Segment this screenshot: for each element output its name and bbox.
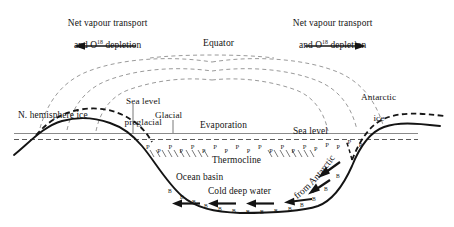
thermocline-marker: P (168, 143, 172, 150)
thermocline-marker: P (348, 138, 352, 145)
label-equator: Equator (203, 38, 234, 49)
label-line-2: ice (373, 113, 384, 123)
bottom-water-marker: B (246, 209, 250, 215)
label-line-1: Sea level (126, 96, 160, 106)
thermocline-marker: P (359, 141, 362, 148)
label-glacial: Glacial (155, 110, 182, 120)
label-net-vapour-transport-right: Net vapour transport and O18 depletion (283, 7, 372, 61)
bottom-water-marker: B (180, 194, 184, 200)
label-line-2-post: depletion (328, 40, 366, 50)
thermocline-marker: P (269, 147, 272, 154)
label-thermocline: Thermocline (212, 155, 261, 166)
thermocline-marker: P (292, 147, 295, 154)
bottom-water-marker: B (260, 209, 264, 215)
thermocline-marker: P (236, 143, 240, 150)
label-net-vapour-transport-left: Net vapour transport and O18 depletion (58, 7, 147, 61)
thermocline-marker: P (303, 143, 307, 150)
deep-water-arrow (246, 200, 274, 208)
vapour-crown-arc (150, 55, 274, 58)
label-evaporation: Evaporation (200, 120, 247, 131)
ocean-ice-isotope-diagram: from Antarctic Net vapour transport and … (0, 0, 454, 227)
bottom-water-marker: B (192, 199, 196, 205)
label-line-1: Net vapour transport (68, 18, 148, 28)
label-line-1: Net vapour transport (293, 18, 373, 28)
thermocline-marker: P (146, 143, 150, 150)
deep-water-arrow (208, 200, 236, 208)
thermocline-marker: P (314, 145, 317, 152)
bottom-water-marker: B (336, 173, 340, 179)
label-line-2-pre: and O (299, 40, 322, 50)
thermocline-marker: P (157, 147, 160, 154)
label-antarctic-ice: Antarctic ice (352, 82, 396, 133)
label-ocean-basin: Ocean basin (176, 172, 223, 183)
bottom-water-marker: B (168, 188, 172, 194)
thermocline-marker: P (213, 143, 217, 150)
thermocline-marker: P (325, 141, 329, 148)
bottom-water-marker: B (204, 203, 208, 209)
thermocline-marker: P (224, 147, 227, 154)
thermocline-marker: P (191, 143, 195, 150)
thermocline-marker: P (247, 147, 250, 154)
thermocline-marker: P (336, 143, 339, 150)
curved-label-from-antarctic: from Antarctic (291, 153, 336, 201)
bottom-water-marker: B (324, 186, 328, 192)
bottom-water-marker: B (218, 206, 222, 212)
thermocline-marker: P (202, 147, 205, 154)
thermocline-marker: P (258, 143, 262, 150)
thermocline-marker: P (280, 143, 284, 150)
label-line-2-post: depletion (103, 40, 141, 50)
label-line-2-pre: and O (74, 40, 97, 50)
bottom-water-marker: B (300, 202, 304, 208)
label-line-1: Antarctic (361, 92, 396, 102)
label-sea-level: Sea level (293, 126, 328, 137)
label-cold-deep-water: Cold deep water (208, 186, 271, 197)
bottom-water-marker: B (312, 196, 316, 202)
bottom-water-marker: B (232, 208, 236, 214)
bottom-water-marker: B (288, 206, 292, 212)
label-n-hemisphere-ice: N. hemisphere ice (18, 110, 88, 121)
thermocline-marker: P (180, 147, 183, 154)
bottom-water-marker: B (274, 208, 278, 214)
